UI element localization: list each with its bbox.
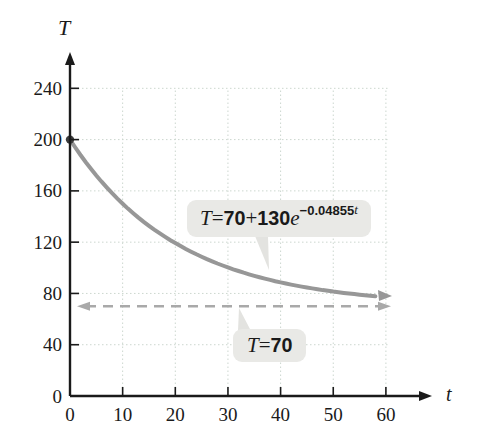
gridlines (70, 88, 390, 396)
label-part: + (245, 206, 257, 231)
curve-equation-label: T = 70 + 130e−0.04855t (187, 200, 371, 237)
x-tick-label-30: 30 (218, 404, 237, 425)
x-tick-label-60: 60 (376, 404, 395, 425)
label-part: t (354, 202, 358, 218)
label-part: 70 (224, 207, 246, 230)
tick-labels: 040801201602002400102030405060 (34, 78, 396, 425)
x-tick-label-0: 0 (65, 404, 75, 425)
label-part: = (259, 333, 271, 358)
label-part: 70 (271, 334, 293, 357)
y-tick-label-240: 240 (34, 78, 63, 99)
y-tick-label-80: 80 (43, 283, 62, 304)
y-tick-label-0: 0 (53, 386, 63, 407)
label-part: = (212, 206, 224, 231)
asymptote-label-tail (238, 308, 251, 331)
curve-label-tail (255, 236, 269, 270)
label-part: T (200, 206, 212, 231)
x-tick-label-50: 50 (324, 404, 343, 425)
label-part: 130 (257, 207, 290, 230)
curve-end-arrowhead (378, 290, 392, 301)
x-tick-label-10: 10 (113, 404, 132, 425)
asymptote-label: T = 70 (233, 329, 306, 362)
y-axis-title: T (58, 15, 70, 41)
asymptote-line (77, 302, 391, 311)
y-tick-label-200: 200 (34, 129, 63, 150)
callout-tails (238, 236, 269, 331)
y-axis-arrowhead (65, 52, 75, 65)
cooling-graph-figure: 040801201602002400102030405060 T t T = 7… (0, 0, 479, 441)
x-tick-label-20: 20 (166, 404, 185, 425)
label-part: −0.04855 (300, 203, 355, 218)
y-tick-label-160: 160 (34, 180, 63, 201)
x-axis-title: t (446, 383, 452, 406)
label-part: e (290, 206, 299, 231)
y-tick-label-40: 40 (43, 334, 62, 355)
asymptote-left-arrowhead (77, 302, 90, 311)
y-tick-label-120: 120 (34, 232, 63, 253)
label-part: T (247, 333, 259, 358)
asymptote-right-arrowhead (378, 302, 391, 311)
x-tick-label-40: 40 (271, 404, 290, 425)
x-axis-arrowhead (419, 391, 432, 401)
